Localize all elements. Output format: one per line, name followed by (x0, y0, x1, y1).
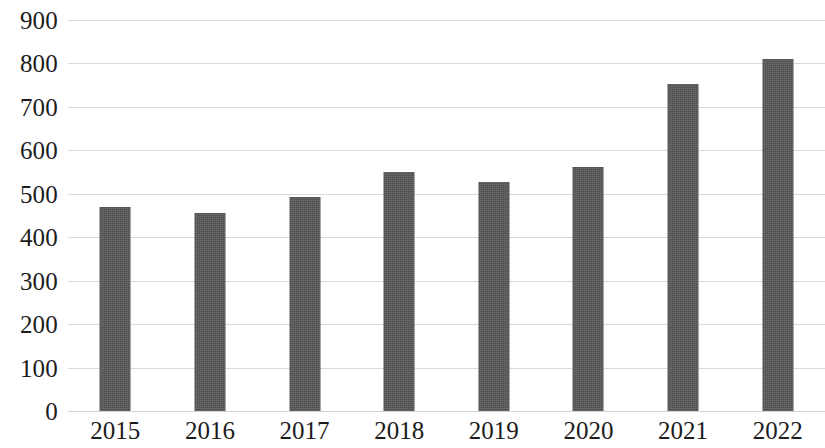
y-axis-tick-label: 400 (0, 225, 58, 250)
y-axis-tick-label: 100 (0, 355, 58, 380)
y-axis-tick-label: 600 (0, 138, 58, 163)
x-axis: 20152016201720182019202020212022 (68, 415, 825, 448)
bar (194, 213, 225, 411)
bar-slot (636, 37, 731, 411)
x-axis-tick-label: 2015 (68, 415, 163, 446)
bar (100, 207, 131, 411)
bar (668, 84, 699, 411)
x-axis-tick-label: 2019 (447, 415, 542, 446)
bar-slot (541, 37, 636, 411)
bar-slot (68, 37, 163, 411)
bar-slot (163, 37, 258, 411)
bar-slot (257, 37, 352, 411)
y-axis-tick-label: 0 (0, 399, 58, 424)
bar-slot (352, 37, 447, 411)
plot-area (68, 0, 825, 448)
bar (762, 59, 793, 411)
y-axis-tick-label: 200 (0, 312, 58, 337)
bar (573, 167, 604, 411)
bar (478, 182, 509, 411)
x-axis-tick-label: 2021 (636, 415, 731, 446)
bar-slot (447, 37, 542, 411)
y-axis-tick-label: 800 (0, 51, 58, 76)
bar-chart: 0100200300400500600700800900 20152016201… (0, 0, 825, 448)
bar (289, 197, 320, 411)
y-axis-tick-label: 900 (0, 8, 58, 33)
x-axis-tick-label: 2020 (541, 415, 636, 446)
x-axis-tick-label: 2016 (163, 415, 258, 446)
y-axis-tick-label: 700 (0, 94, 58, 119)
x-axis-tick-label: 2018 (352, 415, 447, 446)
y-axis-tick-label: 500 (0, 181, 58, 206)
bar (384, 172, 415, 411)
y-axis-tick-label: 300 (0, 268, 58, 293)
x-axis-tick-label: 2017 (257, 415, 352, 446)
bar-slot (730, 37, 825, 411)
y-axis: 0100200300400500600700800900 (0, 0, 58, 448)
x-axis-tick-label: 2022 (730, 415, 825, 446)
